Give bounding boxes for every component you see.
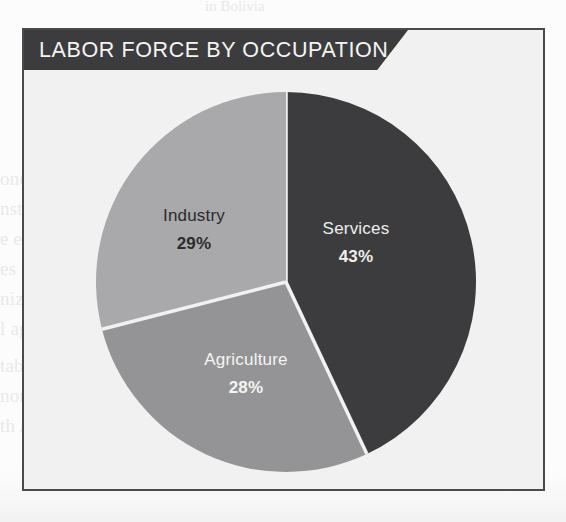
slice-value-industry: 29% (177, 234, 212, 253)
slice-label-industry: Industry (163, 206, 225, 225)
pie-chart: Services43%Agriculture28%Industry29% (88, 84, 484, 480)
slice-value-services: 43% (339, 247, 374, 266)
slice-value-agriculture: 28% (229, 378, 264, 397)
infographic-card: LABOR FORCE BY OCCUPATION Services43%Agr… (22, 28, 545, 491)
slice-label-agriculture: Agriculture (204, 350, 287, 369)
ghost-text-line: in Bolivia (205, 0, 265, 15)
page-title: LABOR FORCE BY OCCUPATION (24, 38, 389, 63)
title-banner: LABOR FORCE BY OCCUPATION (24, 30, 408, 70)
pie-slices (96, 92, 476, 472)
pie-chart-area: Services43%Agriculture28%Industry29% (24, 70, 543, 489)
slice-label-services: Services (323, 219, 390, 238)
